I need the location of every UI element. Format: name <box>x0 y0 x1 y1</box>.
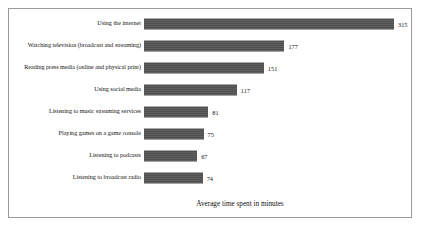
bar-category-label: Watching television (broadcast and strea… <box>17 42 141 50</box>
bar-category-label: Reading press media (online and physical… <box>17 64 141 72</box>
chart-frame: Using the internet315Watching television… <box>8 8 412 218</box>
bar-row: Using the internet315 <box>9 13 411 35</box>
bar-row: Reading press media (online and physical… <box>9 57 411 79</box>
bar-track: 75 <box>144 123 411 145</box>
bar <box>144 41 284 52</box>
bar-row: Listening to music streaming services81 <box>9 101 411 123</box>
bar-row: Watching television (broadcast and strea… <box>9 35 411 57</box>
bar-row: Using social media117 <box>9 79 411 101</box>
bar-value-label: 75 <box>208 131 214 138</box>
bar-value-label: 117 <box>241 87 250 94</box>
bar <box>144 63 264 74</box>
bar-value-label: 315 <box>398 21 407 28</box>
bar-value-label: 151 <box>268 65 277 72</box>
x-axis-title: Average time spent in minutes <box>9 200 411 208</box>
bar-value-label: 74 <box>207 175 213 182</box>
bar <box>144 107 208 118</box>
bar-chart-plot-area: Using the internet315Watching television… <box>9 9 411 217</box>
bar-row: Listening to broadcast radio74 <box>9 167 411 189</box>
bar-category-label: Listening to podcasts <box>17 152 141 160</box>
bar <box>144 151 197 162</box>
bar-track: 315 <box>144 13 411 35</box>
bar <box>144 19 394 30</box>
bar-category-label: Listening to music streaming services <box>17 108 141 116</box>
bar-category-label: Playing games on a game console <box>17 130 141 138</box>
bar-track: 177 <box>144 35 411 57</box>
bar-track: 67 <box>144 145 411 167</box>
bar-track: 81 <box>144 101 411 123</box>
bar <box>144 129 204 140</box>
bar-track: 117 <box>144 79 411 101</box>
bar-row: Playing games on a game console75 <box>9 123 411 145</box>
bar-category-label: Listening to broadcast radio <box>17 174 141 182</box>
bar-value-label: 177 <box>288 43 297 50</box>
bar-track: 151 <box>144 57 411 79</box>
bar-value-label: 67 <box>201 153 207 160</box>
bar-category-label: Using the internet <box>17 20 141 28</box>
bar-category-label: Using social media <box>17 86 141 94</box>
bar-value-label: 81 <box>212 109 218 116</box>
bar-track: 74 <box>144 167 411 189</box>
bar <box>144 173 203 184</box>
bar-row: Listening to podcasts67 <box>9 145 411 167</box>
bar <box>144 85 237 96</box>
